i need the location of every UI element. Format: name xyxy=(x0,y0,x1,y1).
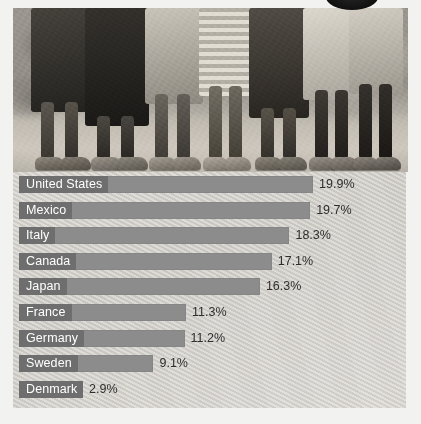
bar-category-label: Mexico xyxy=(19,202,72,219)
bar-category-label: Japan xyxy=(19,278,67,295)
infographic-page: United States19.9%Mexico19.7%Italy18.3%C… xyxy=(0,0,421,424)
bar-value-label: 9.1% xyxy=(159,355,188,372)
bar-value-label: 16.3% xyxy=(266,278,301,295)
bar-category-label: Germany xyxy=(19,330,84,347)
photo-vignette xyxy=(13,8,408,172)
bar-chart-row: Germany11.2% xyxy=(19,330,399,347)
bar-chart-row: Mexico19.7% xyxy=(19,202,399,219)
bar-chart-row: Japan16.3% xyxy=(19,278,399,295)
bar-value-label: 11.2% xyxy=(191,330,226,347)
bar-chart-row: France11.3% xyxy=(19,304,399,321)
bar-chart-panel: United States19.9%Mexico19.7%Italy18.3%C… xyxy=(13,172,406,408)
bar-chart-row: Italy18.3% xyxy=(19,227,399,244)
bar xyxy=(19,227,289,244)
bar-category-label: France xyxy=(19,304,72,321)
bar-chart-row: United States19.9% xyxy=(19,176,399,193)
bar-category-label: Canada xyxy=(19,253,76,270)
bar-value-label: 11.3% xyxy=(192,304,227,321)
bar-chart-row: Sweden9.1% xyxy=(19,355,399,372)
bar-category-label: United States xyxy=(19,176,108,193)
bar-chart-row: Canada17.1% xyxy=(19,253,399,270)
bar-chart-row: Denmark2.9% xyxy=(19,381,399,398)
bar-value-label: 19.9% xyxy=(319,176,354,193)
bar-category-label: Italy xyxy=(19,227,55,244)
bar-category-label: Sweden xyxy=(19,355,78,372)
bar-value-label: 19.7% xyxy=(316,202,351,219)
header-photograph xyxy=(13,8,408,172)
bar-value-label: 2.9% xyxy=(89,381,118,398)
bar-value-label: 18.3% xyxy=(295,227,330,244)
bar-category-label: Denmark xyxy=(19,381,83,398)
bar-value-label: 17.1% xyxy=(278,253,313,270)
